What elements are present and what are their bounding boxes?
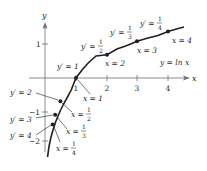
x-tick-label-2: 2 (105, 84, 110, 93)
x-tick-label-3: 3 (135, 84, 140, 93)
label-yp-quarter: y′ = 1 4 (139, 15, 162, 31)
curve-label: y = ln x (159, 58, 190, 67)
svg-text:1: 1 (158, 15, 162, 22)
svg-text:y′ =: y′ = (139, 19, 155, 28)
svg-text:4: 4 (72, 149, 76, 156)
y-axis-label: y (41, 11, 47, 20)
svg-text:2: 2 (87, 115, 91, 122)
svg-text:y′ =: y′ = (109, 28, 125, 37)
svg-text:2: 2 (99, 47, 103, 54)
svg-text:3: 3 (82, 132, 86, 139)
svg-text:1: 1 (72, 140, 76, 147)
x-axis-label: x (192, 74, 197, 83)
svg-text:y′ =: y′ = (80, 42, 96, 51)
svg-text:3: 3 (128, 33, 132, 40)
point-x-4 (166, 30, 170, 34)
svg-text:x =: x = (71, 110, 84, 119)
ln-curve (48, 27, 184, 157)
svg-text:x =: x = (66, 127, 79, 136)
y-tick-label-1: 1 (36, 40, 41, 49)
svg-text:4: 4 (158, 24, 162, 31)
label-x4: x = 4 (172, 36, 192, 45)
label-x-third: x = 1 3 (66, 123, 86, 139)
point-x-quarter (51, 122, 55, 126)
svg-text:1: 1 (128, 24, 132, 31)
svg-text:1: 1 (99, 38, 103, 45)
point-x-2 (105, 53, 109, 57)
svg-text:y′ = 1: y′ = 1 (56, 62, 79, 71)
point-x-1 (74, 76, 78, 80)
label-x-half: x = 1 2 (71, 106, 91, 122)
label-yp3: y′ = 3 (9, 115, 32, 124)
label-x3: x = 3 (137, 46, 157, 55)
label-x1: x = 1 (83, 94, 103, 103)
label-yp-third: y′ = 1 3 (109, 24, 132, 40)
svg-text:x =: x = (56, 144, 69, 153)
label-x-quarter: x = 1 4 (56, 140, 76, 156)
svg-text:1: 1 (82, 123, 86, 130)
label-yp4: y′ = 4 (9, 131, 32, 140)
label-yp1: y′ = 1 (56, 62, 79, 71)
svg-text:1: 1 (87, 106, 91, 113)
label-yp2: y′ = 2 (9, 88, 32, 97)
label-yp-half: y′ = 1 2 (80, 38, 103, 54)
point-x-third (53, 113, 57, 117)
ln-derivative-diagram: y x 1 2 3 4 1 −1 −2 y′ = 1 y′ = 1 2 y′ (0, 0, 207, 171)
point-x-3 (135, 39, 139, 43)
x-tick-label-4: 4 (166, 84, 171, 93)
x-tick-label-1: 1 (74, 84, 79, 93)
point-x-half (58, 99, 62, 103)
label-x2: x = 2 (105, 59, 125, 68)
